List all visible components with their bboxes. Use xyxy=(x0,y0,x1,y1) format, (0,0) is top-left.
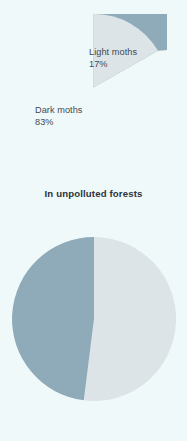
pie-graphic-polluted xyxy=(12,237,176,401)
pie-chart-unpolluted-forests: Light moths 17% Dark moths 83% In unpoll… xyxy=(0,0,187,215)
pie-slice-dark-moths-polluted xyxy=(12,237,94,400)
chart-caption-unpolluted: In unpolluted forests xyxy=(0,188,187,199)
pie-svg-unpolluted xyxy=(20,14,167,161)
pie-svg-polluted xyxy=(12,237,176,401)
pie-graphic-unpolluted xyxy=(20,14,167,161)
pie-chart-polluted-forests: Dark moths 23% Light moths 77% In pollut… xyxy=(0,222,187,441)
pie-slice-light-moths-polluted xyxy=(84,237,176,401)
